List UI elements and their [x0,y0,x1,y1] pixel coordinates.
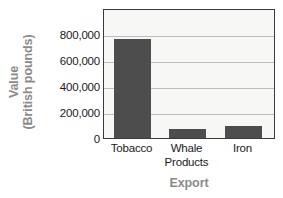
y-axis-title-line-1: Value [7,66,22,98]
y-tick-label: 800,000 [46,30,100,41]
y-axis-title: Value (British pounds) [0,17,43,147]
x-tick-label-line: Iron [203,141,283,155]
plot-area [103,9,275,139]
bar-chart-figure: Value (British pounds) 800,000600,000400… [0,0,282,198]
y-tick-label: 600,000 [46,56,100,67]
bar [114,39,151,138]
x-axis-tick-labels: TobaccoWhaleProductsIron [103,141,275,173]
y-axis-title-line-2: (British pounds) [21,35,36,130]
bars-layer [104,10,274,138]
x-tick-label: Iron [203,141,283,155]
y-axis-tick-labels: 800,000600,000400,000200,0000 [46,8,100,139]
bar [225,126,262,138]
y-tick-label: 200,000 [46,108,100,119]
x-axis-title: Export [103,176,275,190]
bar [169,129,206,138]
y-tick-label: 400,000 [46,82,100,93]
x-tick-label-line: Products [147,155,227,169]
